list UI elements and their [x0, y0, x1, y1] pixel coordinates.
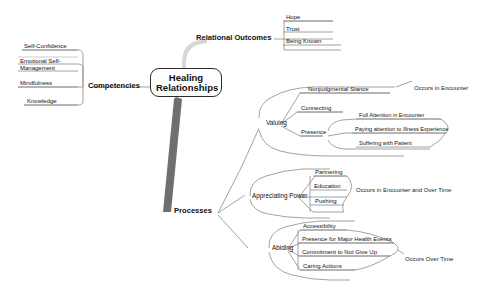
leaf-education[interactable]: Education: [314, 183, 341, 189]
note-occurs-over-time: Occurs Over Time: [405, 256, 453, 262]
node-valuing[interactable]: Valuing: [266, 120, 287, 127]
note-occurs-in-encounter: Occurs in Encounter: [414, 85, 468, 91]
leaf-caring-actions[interactable]: Caring Actions: [303, 263, 342, 269]
leaf-nonjudgmental-stance[interactable]: Nonjudgmental Stance: [308, 86, 369, 92]
node-appreciating-power[interactable]: Appreciating Power: [252, 193, 307, 200]
leader-note-valuing: [396, 81, 412, 87]
root-line-2: Relationships: [156, 83, 216, 93]
leaf-presence[interactable]: Presence: [301, 129, 326, 135]
outline-ap-right: [343, 176, 352, 212]
line-valuing-connecting: [281, 112, 343, 124]
node-abiding[interactable]: Abiding: [272, 245, 293, 252]
outline-presence-right: [430, 119, 448, 147]
note-occurs-in-encounter-and-over-time: Occurs in Encounter and Over Time: [356, 187, 451, 193]
leaf-commitment-to-not-give-up[interactable]: Commitment to Not Give Up: [302, 249, 377, 255]
leaf-suffering-with-patient[interactable]: Suffering with Patient: [359, 141, 412, 147]
leaf-trust[interactable]: Trust: [286, 26, 299, 32]
leader-note-abiding: [398, 250, 404, 254]
connector-lines: [0, 0, 489, 293]
leaf-being-known[interactable]: Being Known: [286, 38, 321, 44]
branch-relational-outcomes[interactable]: Relational Outcomes: [196, 34, 272, 42]
line-presence-paying-attention: [328, 133, 446, 136]
leaf-self-confidence[interactable]: Self-Confidence: [24, 43, 67, 49]
leaf-partnering[interactable]: Partnering: [315, 169, 343, 175]
branch-processes[interactable]: Processes: [174, 207, 212, 215]
leaf-full-attention-in-encounter[interactable]: Full Attention in Encounter: [359, 113, 424, 119]
leaf-accessibility[interactable]: Accessibility: [303, 223, 336, 229]
leaf-paying-attention-to-illness-experience[interactable]: Paying attention to Illness Experience: [355, 127, 448, 133]
line-valuing-nonjudgmental: [281, 93, 390, 124]
leaf-emotional-self-management[interactable]: Emotional Self-Management: [20, 58, 78, 72]
leaf-pushing[interactable]: Pushing: [315, 198, 337, 204]
mind-map-canvas: Healing Relationships Competencies Self-…: [0, 0, 489, 293]
line-processes-valuing: [218, 128, 259, 213]
leaf-knowledge[interactable]: Knowledge: [27, 98, 57, 104]
leaf-mindfulness[interactable]: Mindfulness: [20, 80, 52, 86]
branch-competencies[interactable]: Competencies: [88, 82, 140, 90]
root-node[interactable]: Healing Relationships: [150, 68, 222, 97]
leaf-connecting[interactable]: Connecting: [301, 105, 331, 111]
trunk-root-to-processes: [163, 97, 182, 212]
line-ro-hope: [274, 21, 333, 39]
trunk-root-to-relational-outcomes: [182, 39, 207, 70]
leaf-presence-for-major-health-events[interactable]: Presence for Major Health Events: [302, 236, 392, 242]
leaf-hope[interactable]: Hope: [286, 14, 300, 20]
line-processes-appreciating-power: [218, 195, 245, 213]
line-processes-abiding: [218, 215, 248, 248]
leader-note-ap: [348, 188, 356, 191]
outline-abiding-right: [355, 243, 398, 270]
